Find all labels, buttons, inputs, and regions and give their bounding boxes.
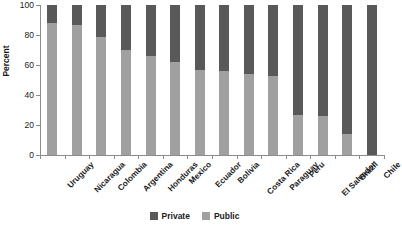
y-tick-label: 0 [29,150,34,160]
bar-costa-rica [244,5,254,155]
x-tick-mark [335,155,336,159]
bar-brazil [342,5,352,155]
y-tick-label: 40 [25,90,34,100]
legend-item-private: Private [150,211,190,221]
bar-segment-public [121,50,131,155]
bar-segment-private [244,5,254,74]
y-tick-mark [36,5,40,6]
x-tick-mark [286,155,287,159]
bar-honduras [146,5,156,155]
bar-segment-private [146,5,156,56]
bar-segment-public [219,71,229,155]
bar-paraguay [268,5,278,155]
bar-segment-private [367,5,377,155]
bar-chile [367,5,377,155]
bar-mexico [170,5,180,155]
y-tick-mark [36,65,40,66]
x-tick-mark [212,155,213,159]
x-tick-mark [114,155,115,159]
x-tick-label: Chile [382,160,402,181]
bar-segment-public [293,115,303,156]
bar-peru [293,5,303,155]
x-tick-mark [261,155,262,159]
bar-segment-private [318,5,328,116]
legend-swatch-icon [202,212,210,220]
bar-segment-private [219,5,229,71]
bar-segment-public [47,23,57,155]
y-tick-mark [36,95,40,96]
bar-segment-private [96,5,106,37]
bar-segment-private [268,5,278,76]
bar-bolivia [219,5,229,155]
y-tick-label: 100 [20,0,34,10]
x-tick-mark [163,155,164,159]
bar-nicaragua [72,5,82,155]
bar-segment-public [268,76,278,156]
bar-segment-private [342,5,352,134]
bar-segment-public [244,74,254,155]
bar-segment-private [121,5,131,50]
bar-segment-public [318,116,328,155]
bar-segment-private [195,5,205,70]
y-tick-label: 80 [25,30,34,40]
bar-segment-private [293,5,303,115]
bar-segment-private [47,5,57,23]
bar-segment-public [342,134,352,155]
x-tick-mark [89,155,90,159]
x-tick-mark [65,155,66,159]
x-tick-mark [138,155,139,159]
bar-argentina [121,5,131,155]
x-tick-mark [384,155,385,159]
bar-segment-private [170,5,180,62]
bar-segment-public [170,62,180,155]
x-tick-mark [40,155,41,159]
bar-colombia [96,5,106,155]
y-tick-label: 60 [25,60,34,70]
legend-item-public: Public [202,211,240,221]
y-axis-line [40,5,41,155]
bar-segment-public [72,25,82,156]
y-tick-label: 20 [25,120,34,130]
legend-swatch-icon [150,212,158,220]
x-tick-mark [310,155,311,159]
bar-el-salvador [318,5,328,155]
legend-label: Public [214,211,240,221]
y-tick-mark [36,35,40,36]
chart-legend: PrivatePublic [0,211,389,221]
x-tick-mark [237,155,238,159]
y-axis-title: Percent [1,31,11,91]
x-tick-mark [359,155,360,159]
legend-label: Private [162,211,190,221]
x-tick-label: Brazil [358,160,380,182]
bar-segment-private [72,5,82,25]
bar-segment-public [96,37,106,156]
bar-segment-public [195,70,205,156]
x-tick-mark [187,155,188,159]
bar-segment-public [146,56,156,155]
plot-area: 020406080100 [40,5,384,155]
y-tick-mark [36,125,40,126]
bar-uruguay [47,5,57,155]
x-tick-label: Uruguay [66,160,96,190]
bar-ecuador [195,5,205,155]
